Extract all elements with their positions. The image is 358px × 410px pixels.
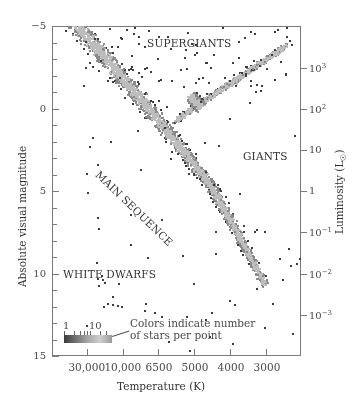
x-axis-title: Temperature (K): [117, 381, 205, 392]
y2-tick: [300, 191, 307, 192]
y-tick: [52, 224, 57, 225]
y-tick: [52, 26, 59, 27]
x-tick-label: 30,000: [68, 362, 105, 373]
x-tick-label: 4000: [218, 362, 245, 373]
label-white-dwarfs: WHITE DWARFS: [63, 269, 156, 280]
y-tick: [52, 191, 59, 192]
y2-axis-title: Luminosity (L☉): [334, 149, 348, 234]
y2-tick-label: 102: [309, 104, 326, 115]
y2-title-paren: ): [333, 149, 345, 153]
y2-title-text: Luminosity (L: [333, 161, 345, 234]
x-tick-label: 10,000: [104, 362, 141, 373]
legend-tick: [80, 331, 81, 335]
y-tick: [52, 323, 57, 324]
y-tick-label: 0: [26, 104, 46, 114]
y-tick: [52, 175, 57, 176]
legend-tick: [106, 331, 107, 335]
legend-tick: [100, 331, 101, 335]
label-giants: GIANTS: [243, 151, 288, 162]
y2-tick: [300, 315, 307, 316]
y-tick-label: −5: [26, 21, 46, 31]
y2-tick: [300, 232, 307, 233]
x-tick: [266, 349, 267, 356]
y2-tick-label: 10−1: [309, 227, 332, 238]
x-tick-label: 5000: [182, 362, 209, 373]
legend-tick: [84, 331, 85, 335]
y-tick: [52, 158, 57, 159]
label-supergiants: SUPERGIANTS: [147, 38, 231, 49]
y-tick-label: 5: [26, 186, 46, 196]
x-tick: [194, 349, 195, 356]
legend-tick: [64, 331, 65, 335]
x-tick-label: 6500: [146, 362, 173, 373]
legend-color-bar: [64, 335, 112, 343]
legend-tick: [90, 331, 91, 335]
y-tick: [52, 59, 57, 60]
y-tick: [52, 76, 57, 77]
sun-symbol-icon: ☉: [339, 154, 348, 161]
y2-tick: [300, 274, 307, 275]
legend-text-line1: Colors indicate number: [130, 318, 255, 329]
y-tick-label: 10: [26, 269, 46, 279]
y-axis-title: Absolute visual magnitude: [17, 146, 28, 287]
y-tick: [52, 241, 57, 242]
y-tick: [52, 109, 59, 110]
legend-scale-10: 10: [89, 321, 102, 331]
x-tick: [123, 349, 124, 356]
star-scatter-plot: [52, 26, 301, 356]
y-tick: [52, 92, 57, 93]
y-tick: [52, 257, 57, 258]
y-tick: [52, 356, 59, 357]
y-tick: [52, 274, 59, 275]
y2-tick-label: 1: [309, 186, 315, 196]
y-tick: [52, 307, 57, 308]
y-tick: [52, 125, 57, 126]
y2-tick-label: 103: [309, 63, 326, 74]
legend-tick: [74, 331, 75, 335]
x-tick: [158, 349, 159, 356]
x-tick: [230, 349, 231, 356]
y2-tick-label: 10: [309, 145, 322, 155]
y-tick: [52, 340, 57, 341]
y2-tick: [300, 68, 307, 69]
legend-tick: [87, 331, 88, 335]
y-tick: [52, 43, 57, 44]
y-tick: [52, 208, 57, 209]
y2-tick: [300, 109, 307, 110]
y2-tick: [300, 150, 307, 151]
y-tick: [52, 290, 57, 291]
x-tick: [87, 349, 88, 356]
y-tick-label: 15: [26, 351, 46, 361]
legend-scale-1: 1: [63, 321, 69, 331]
y2-tick-label: 10−3: [309, 310, 332, 321]
y2-tick-label: 10−2: [309, 269, 332, 280]
legend-text-line2: of stars per point: [130, 330, 222, 341]
x-tick-label: 3000: [254, 362, 281, 373]
y-tick: [52, 142, 57, 143]
